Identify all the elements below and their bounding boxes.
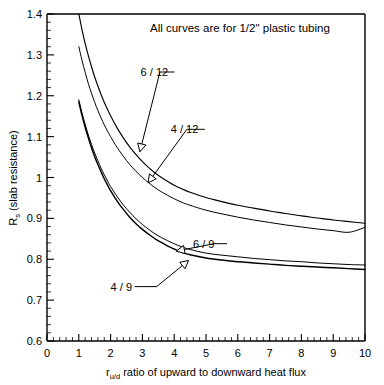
x-tick-label: 4 bbox=[171, 347, 177, 359]
chart-note: All curves are for 1/2" plastic tubing bbox=[150, 22, 330, 34]
x-tick-label: 8 bbox=[298, 347, 304, 359]
callout-leader-line bbox=[135, 261, 189, 287]
y-tick-label: 0.6 bbox=[27, 335, 42, 347]
x-tick-label: 10 bbox=[359, 347, 371, 359]
x-tick-label: 1 bbox=[76, 347, 82, 359]
y-axis-title-prefix: R bbox=[7, 218, 19, 226]
callout-arrowhead bbox=[138, 143, 146, 152]
y-tick-label: 0.9 bbox=[27, 212, 42, 224]
callout-leader-line bbox=[140, 72, 175, 152]
curve-4-9: 4 / 9 bbox=[79, 102, 365, 270]
x-axis-title: ru/d ratio of upward to downward heat fl… bbox=[106, 366, 306, 381]
y-tick-label: 1.2 bbox=[27, 90, 42, 102]
x-tick-labels: 012345678910 bbox=[44, 347, 371, 359]
x-tick-label: 6 bbox=[235, 347, 241, 359]
callout-6-12: 6 / 12 bbox=[138, 66, 175, 152]
x-tick-label: 3 bbox=[139, 347, 145, 359]
x-tick-label: 2 bbox=[108, 347, 114, 359]
y-axis-ticks bbox=[47, 14, 54, 341]
chart-canvas: 012345678910 0.60.70.80.911.11.21.31.4 6… bbox=[0, 0, 384, 385]
callout-arrowhead bbox=[148, 174, 156, 183]
x-tick-label: 7 bbox=[267, 347, 273, 359]
curve-6-12: 6 / 12 bbox=[79, 14, 365, 223]
callout-4-9: 4 / 9 bbox=[111, 261, 189, 293]
curve-4-12: 4 / 12 bbox=[79, 47, 365, 233]
x-axis-title-subscript: u/d bbox=[110, 372, 120, 381]
y-tick-label: 1 bbox=[36, 172, 42, 184]
callout-label: 4 / 9 bbox=[111, 281, 132, 293]
callout-6-9: 6 / 9 bbox=[176, 238, 227, 254]
x-tick-label: 9 bbox=[330, 347, 336, 359]
x-tick-label: 5 bbox=[203, 347, 209, 359]
y-tick-label: 0.7 bbox=[27, 294, 42, 306]
y-tick-labels: 0.60.70.80.911.11.21.31.4 bbox=[27, 8, 42, 347]
curve-6-9: 6 / 9 bbox=[79, 100, 365, 265]
y-tick-label: 0.8 bbox=[27, 253, 42, 265]
data-curves: 6 / 124 / 126 / 94 / 9 bbox=[79, 14, 365, 269]
y-axis-title: Rs (slab resistance) bbox=[7, 130, 22, 225]
svg-text:Rs (slab resistance): Rs (slab resistance) bbox=[7, 130, 22, 225]
callout-arrowhead bbox=[180, 261, 189, 269]
callout-label: 6 / 12 bbox=[141, 66, 169, 78]
callout-label: 6 / 9 bbox=[193, 238, 214, 250]
y-axis-title-rest: (slab resistance) bbox=[7, 130, 19, 214]
y-tick-label: 1.4 bbox=[27, 8, 42, 20]
x-axis-title-rest: ratio of upward to downward heat flux bbox=[120, 366, 306, 378]
y-tick-label: 1.1 bbox=[27, 131, 42, 143]
callout-label: 4 / 12 bbox=[171, 123, 199, 135]
y-tick-label: 1.3 bbox=[27, 49, 42, 61]
x-tick-label: 0 bbox=[44, 347, 50, 359]
x-axis-ticks bbox=[47, 334, 365, 341]
svg-text:ru/d ratio of upward to downwa: ru/d ratio of upward to downward heat fl… bbox=[106, 366, 306, 381]
chart-figure: 012345678910 0.60.70.80.911.11.21.31.4 6… bbox=[0, 0, 384, 385]
axes-frame bbox=[47, 14, 365, 341]
